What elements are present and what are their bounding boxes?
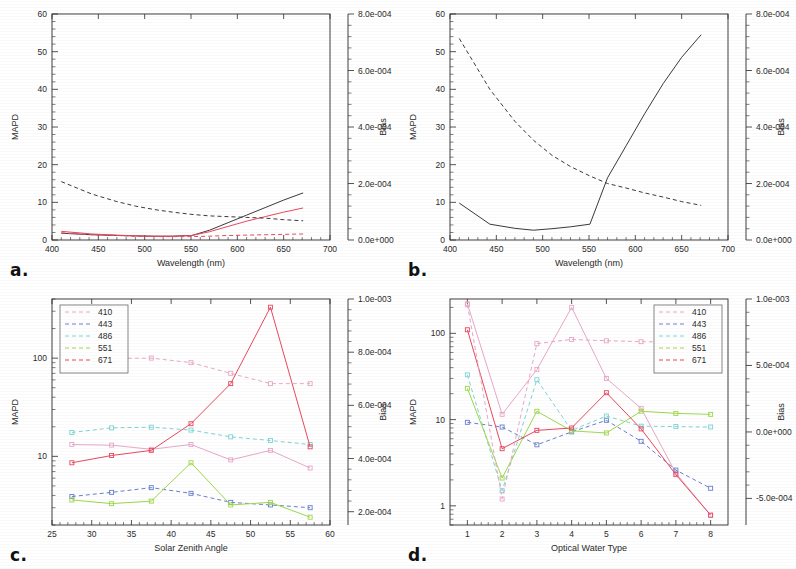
x-tick-label: 55 xyxy=(286,529,296,539)
x-tick-label: 400 xyxy=(443,244,457,254)
y-tick-label: 10 xyxy=(436,415,446,425)
x-tick-label: 30 xyxy=(87,529,97,539)
y2-tick-label: 2.0e-004 xyxy=(358,507,392,517)
x-tick-label: 450 xyxy=(489,244,503,254)
legend-label-486: 486 xyxy=(98,331,112,341)
y-tick-label: 40 xyxy=(436,84,446,94)
legend-label-671: 671 xyxy=(692,355,706,365)
y2-tick-label: 2.0e-004 xyxy=(756,179,790,189)
panel-a-plot: 40045050055060065070001020304050600.0e+0… xyxy=(0,0,398,284)
y2-tick-label: 6.0e-004 xyxy=(358,66,392,76)
x-tick-label: 500 xyxy=(138,244,152,254)
x-tick-label: 700 xyxy=(721,244,735,254)
legend-label-443: 443 xyxy=(692,319,706,329)
x-tick-label: 600 xyxy=(628,244,642,254)
x-tick-label: 45 xyxy=(206,529,216,539)
y-axis-title: MAPD xyxy=(408,114,418,141)
y2-tick-label: 0.0e+000 xyxy=(756,427,792,437)
y-axis-title: MAPD xyxy=(10,399,20,426)
legend-label-410: 410 xyxy=(692,307,706,317)
y2-tick-label: 0.0e+000 xyxy=(358,235,394,245)
panel-d-label: d. xyxy=(408,545,428,565)
legend-label-551: 551 xyxy=(692,343,706,353)
panel-b-label: b. xyxy=(408,260,428,280)
x-tick-label: 2 xyxy=(500,529,505,539)
x-tick-label: 50 xyxy=(246,529,256,539)
series-0 xyxy=(459,35,701,230)
data-point-marker xyxy=(709,486,713,490)
y-tick-label: 0 xyxy=(42,235,47,245)
x-tick-label: 400 xyxy=(45,244,59,254)
x-axis-title: Wavelength (nm) xyxy=(157,258,225,268)
y2-tick-label: 0.0e+000 xyxy=(756,235,792,245)
y2-axis-title: Bias xyxy=(378,118,388,136)
series-2 xyxy=(72,427,310,444)
x-tick-label: 1 xyxy=(465,529,470,539)
y-tick-label: 40 xyxy=(38,84,48,94)
x-tick-label: 25 xyxy=(47,529,57,539)
data-point-marker xyxy=(308,466,312,470)
y-tick-label: 0 xyxy=(440,235,445,245)
y-tick-label: 60 xyxy=(436,9,446,19)
y2-tick-label: 5.0e-004 xyxy=(756,360,790,370)
y-tick-label: 1 xyxy=(440,501,445,511)
y-tick-label: 50 xyxy=(436,47,446,57)
legend-label-671: 671 xyxy=(98,355,112,365)
x-axis-title: Optical Water Type xyxy=(551,543,627,553)
y-tick-label: 60 xyxy=(38,9,48,19)
x-tick-label: 650 xyxy=(675,244,689,254)
data-point-marker xyxy=(535,443,539,447)
y-tick-label: 10 xyxy=(38,197,48,207)
x-tick-label: 60 xyxy=(325,529,335,539)
x-axis-title: Solar Zenith Angle xyxy=(154,543,228,553)
plot-frame xyxy=(450,14,728,240)
legend-label-410: 410 xyxy=(98,307,112,317)
y-tick-label: 30 xyxy=(38,122,48,132)
panel-b-plot: 40045050055060065070001020304050600.0e+0… xyxy=(398,0,796,284)
x-tick-label: 500 xyxy=(536,244,550,254)
legend-label-443: 443 xyxy=(98,319,112,329)
x-tick-label: 8 xyxy=(708,529,713,539)
legend-label-551: 551 xyxy=(98,343,112,353)
panel-d-plot: 12345678110100-5.0e-0040.0e+0005.0e-0041… xyxy=(398,285,796,569)
x-tick-label: 700 xyxy=(323,244,337,254)
y2-tick-label: 8.0e-004 xyxy=(756,9,790,19)
y-tick-label: 100 xyxy=(431,328,445,338)
x-tick-label: 550 xyxy=(582,244,596,254)
y-tick-label: 20 xyxy=(436,160,446,170)
x-tick-label: 450 xyxy=(91,244,105,254)
panel-d: 12345678110100-5.0e-0040.0e+0005.0e-0041… xyxy=(398,285,796,569)
y-tick-label: 20 xyxy=(38,160,48,170)
y-tick-label: 50 xyxy=(38,47,48,57)
legend-box xyxy=(654,305,722,373)
x-tick-label: 650 xyxy=(277,244,291,254)
data-point-marker xyxy=(268,382,272,386)
y2-tick-label: 6.0e-004 xyxy=(756,66,790,76)
panel-c: 2530354045505560101002.0e-0044.0e-0046.0… xyxy=(0,285,398,569)
legend-box xyxy=(60,305,128,373)
x-tick-label: 7 xyxy=(674,529,679,539)
x-tick-label: 40 xyxy=(166,529,176,539)
y2-tick-label: 2.0e-004 xyxy=(358,179,392,189)
series-1 xyxy=(61,208,303,236)
panel-a-label: a. xyxy=(10,260,29,280)
y-axis-title: MAPD xyxy=(408,399,418,426)
y2-tick-label: 1.0e-003 xyxy=(358,294,392,304)
y-tick-label: 10 xyxy=(436,197,446,207)
x-tick-label: 6 xyxy=(639,529,644,539)
y-tick-label: 30 xyxy=(436,122,446,132)
y2-axis-title: Bias xyxy=(378,403,388,421)
plot-frame xyxy=(52,14,330,240)
x-tick-label: 5 xyxy=(604,529,609,539)
y2-axis-title: Bias xyxy=(776,403,786,421)
y2-tick-label: 8.0e-004 xyxy=(358,347,392,357)
y2-tick-label: 4.0e-004 xyxy=(358,454,392,464)
y2-tick-label: -5.0e-004 xyxy=(756,493,793,503)
y2-axis-title: Bias xyxy=(776,118,786,136)
figure-panel-grid: 40045050055060065070001020304050600.0e+0… xyxy=(0,0,796,569)
y-tick-label: 10 xyxy=(38,451,48,461)
panel-b: 40045050055060065070001020304050600.0e+0… xyxy=(398,0,796,284)
legend-label-486: 486 xyxy=(692,331,706,341)
x-tick-label: 35 xyxy=(127,529,137,539)
x-tick-label: 3 xyxy=(535,529,540,539)
